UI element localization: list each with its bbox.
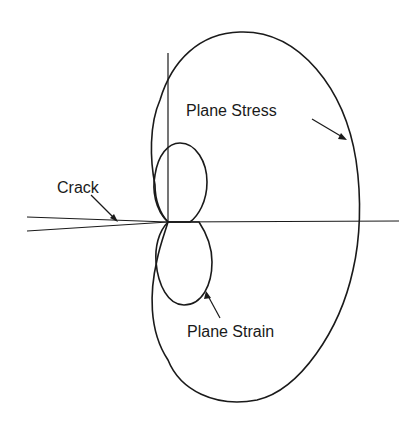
crack xyxy=(27,217,168,231)
crack-label: Crack xyxy=(57,179,100,196)
horizontal-axis xyxy=(168,221,399,222)
plastic-zone-diagram: Crack Plane Stress Plane Strain xyxy=(0,0,417,427)
plane-strain-leader-arrow xyxy=(204,291,220,318)
plane-stress-label: Plane Stress xyxy=(186,102,277,119)
plane-strain-label: Plane Strain xyxy=(187,323,274,340)
plane-stress-zone xyxy=(151,32,359,402)
plane-stress-leader-arrow xyxy=(312,119,347,140)
plane-strain-zone-upper xyxy=(154,143,207,222)
crack-leader-arrow xyxy=(91,195,118,222)
